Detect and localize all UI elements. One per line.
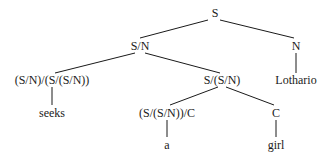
node-root-s: S bbox=[212, 7, 219, 19]
node-word-a: a bbox=[164, 139, 169, 151]
node-c: C bbox=[272, 107, 280, 119]
node-seeks-category: (S/N)/(S/(S/N)) bbox=[15, 74, 90, 86]
node-n: N bbox=[292, 40, 301, 52]
node-word-seeks: seeks bbox=[39, 107, 65, 119]
edge-root-n bbox=[220, 20, 294, 38]
node-determiner-category: (S/(S/N))/C bbox=[139, 107, 195, 119]
edge-root-s_n bbox=[140, 20, 208, 38]
parse-tree-diagram: S S/N N (S/N)/(S/(S/N)) S/(S/N) Lothario… bbox=[0, 0, 332, 159]
node-s-over-n: S/N bbox=[131, 40, 150, 52]
node-np-category: S/(S/N) bbox=[204, 74, 241, 86]
edge-np_cat-det_cat bbox=[170, 87, 218, 105]
edge-s_n-seeks_cat bbox=[55, 53, 135, 73]
node-word-lothario: Lothario bbox=[275, 74, 316, 86]
edge-np_cat-c bbox=[226, 87, 274, 105]
edge-s_n-np_cat bbox=[145, 53, 220, 73]
node-word-girl: girl bbox=[268, 139, 285, 151]
